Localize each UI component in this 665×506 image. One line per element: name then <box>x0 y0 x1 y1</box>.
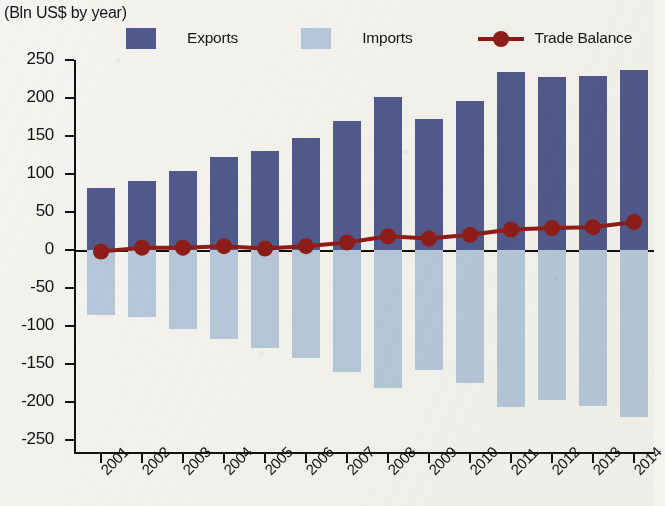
y-tick-label: 100 <box>0 163 54 183</box>
y-tick-label: 150 <box>0 125 54 145</box>
trade-balance-point-2012 <box>544 220 560 236</box>
chart-subtitle: (Bln US$ by year) <box>4 4 127 22</box>
y-tick-label: 50 <box>0 201 54 221</box>
trade-balance-point-2011 <box>503 222 519 238</box>
legend-label-imports: Imports <box>362 29 412 47</box>
legend-label-exports: Exports <box>187 29 238 47</box>
y-tick-mark <box>65 59 74 61</box>
legend-swatch-exports-icon <box>126 28 156 49</box>
legend-label-trade-balance: Trade Balance <box>534 29 632 47</box>
y-tick-mark <box>65 287 74 289</box>
y-tick-mark <box>65 325 74 327</box>
trade-balance-point-2010 <box>462 227 478 243</box>
y-tick-label: 200 <box>0 87 54 107</box>
plot-area: 250200150100500-50-100-150-200-250 20012… <box>74 60 654 452</box>
y-tick-mark <box>65 173 74 175</box>
y-tick-label: 250 <box>0 49 54 69</box>
legend-item-imports: Imports <box>301 28 412 49</box>
y-tick-mark <box>65 401 74 403</box>
trade-balance-point-2014 <box>626 214 642 230</box>
y-tick-label: -200 <box>0 391 54 411</box>
y-tick-mark <box>65 97 74 99</box>
chart-legend: Exports Imports Trade Balance <box>126 27 632 49</box>
y-tick-label: -150 <box>0 353 54 373</box>
trade-balance-point-2007 <box>339 234 355 250</box>
legend-item-trade-balance: Trade Balance <box>478 28 632 49</box>
y-tick-mark <box>65 363 74 365</box>
legend-item-exports: Exports <box>126 28 238 49</box>
y-tick-label: 0 <box>0 239 54 259</box>
y-tick-label: -100 <box>0 315 54 335</box>
y-tick-mark <box>65 211 74 213</box>
trade-balance-line <box>74 60 654 452</box>
y-tick-mark <box>65 135 74 137</box>
legend-swatch-imports-icon <box>301 28 331 49</box>
trade-balance-point-2006 <box>298 238 314 254</box>
y-tick-mark <box>65 439 74 441</box>
legend-line-marker-icon <box>478 28 524 49</box>
trade-balance-point-2002 <box>134 240 150 256</box>
y-tick-label: -250 <box>0 429 54 449</box>
y-tick-label: -50 <box>0 277 54 297</box>
trade-balance-point-2003 <box>175 240 191 256</box>
trade-balance-point-2008 <box>380 228 396 244</box>
trade-balance-point-2001 <box>93 244 109 260</box>
trade-balance-point-2013 <box>585 219 601 235</box>
trade-balance-point-2004 <box>216 238 232 254</box>
trade-balance-point-2005 <box>257 241 273 257</box>
y-tick-mark <box>65 249 74 251</box>
trade-balance-point-2009 <box>421 231 437 247</box>
